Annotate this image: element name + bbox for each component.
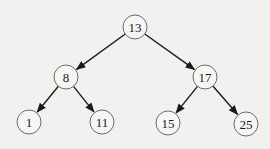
node-label: 13 [129, 20, 142, 35]
edge-13-to-17 [145, 34, 195, 69]
tree-node-8: 8 [54, 65, 78, 89]
edge-8-to-11 [73, 86, 93, 111]
node-label: 15 [162, 116, 175, 131]
node-label: 11 [96, 115, 109, 130]
tree-node-1: 1 [17, 110, 41, 134]
tree-node-13: 13 [123, 15, 147, 39]
tree-node-17: 17 [193, 65, 217, 89]
nodes-layer: 138171111525 [17, 15, 258, 136]
edge-8-to-1 [37, 86, 58, 112]
edge-13-to-8 [77, 34, 126, 69]
edge-17-to-15 [176, 86, 197, 113]
node-label: 1 [26, 115, 33, 130]
tree-node-25: 25 [234, 112, 258, 136]
tree-diagram: 138171111525 [0, 0, 270, 149]
tree-node-11: 11 [90, 110, 114, 134]
node-label: 25 [240, 117, 253, 132]
edge-17-to-25 [213, 86, 238, 114]
node-label: 17 [199, 70, 213, 85]
node-label: 8 [63, 70, 70, 85]
tree-node-15: 15 [156, 111, 180, 135]
